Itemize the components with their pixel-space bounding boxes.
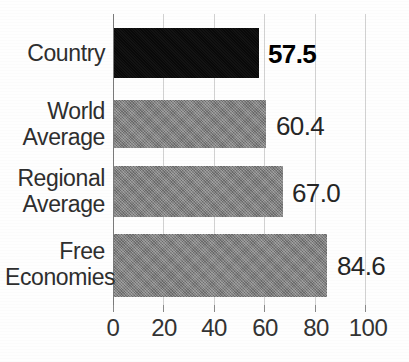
category-label-line: Average	[5, 191, 105, 217]
bar-fill	[114, 100, 266, 148]
category-label-line: Regional	[5, 165, 105, 191]
tick-mark-100	[365, 305, 366, 312]
bar-fill	[114, 234, 327, 297]
category-label-line: World	[5, 98, 105, 124]
x-tick-label-0: 0	[107, 316, 120, 340]
tick-mark-40	[214, 305, 215, 312]
bar-world-average	[114, 100, 266, 148]
x-tick-label-60: 60	[252, 316, 278, 340]
category-label-regional-average: Regional Average	[5, 165, 105, 217]
tick-mark-20	[163, 305, 164, 312]
category-label-line: Free	[5, 238, 105, 264]
bar-chart: Country World Average Regional Average F…	[0, 0, 409, 362]
category-label-world-average: World Average	[5, 98, 105, 150]
bar-regional-average	[114, 166, 283, 217]
bar-free-economies	[114, 234, 327, 297]
category-label-line: Average	[5, 124, 105, 150]
category-label-line: Country	[5, 40, 105, 66]
tick-mark-0	[113, 305, 114, 312]
x-tick-label-40: 40	[201, 316, 227, 340]
category-label-free-economies: Free Economies	[5, 238, 105, 290]
tick-mark-80	[315, 305, 316, 312]
value-label-free-economies: 84.6	[337, 253, 385, 279]
bar-fill	[114, 166, 283, 217]
value-label-regional-average: 67.0	[292, 180, 340, 206]
x-tick-label-20: 20	[151, 316, 177, 340]
value-label-country: 57.5	[268, 41, 316, 67]
bar-country	[114, 28, 259, 78]
category-label-country: Country	[5, 40, 105, 66]
category-label-line: Economies	[5, 264, 105, 290]
x-tick-label-80: 80	[303, 316, 329, 340]
bar-fill	[114, 28, 259, 78]
value-label-world-average: 60.4	[276, 113, 324, 139]
x-tick-label-100: 100	[349, 316, 388, 340]
tick-mark-60	[264, 305, 265, 312]
